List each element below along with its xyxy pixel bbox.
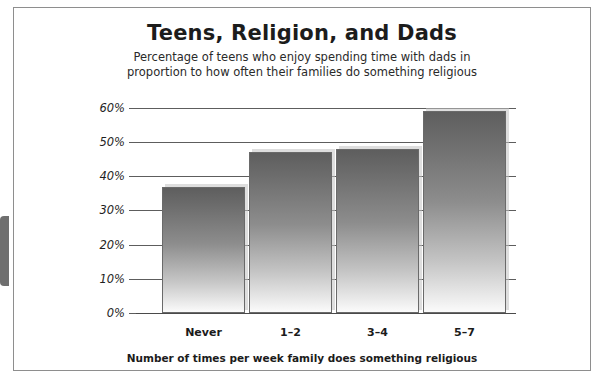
xtick-label-3-4: 3–4 [336,326,419,339]
chart-subtitle: Percentage of teens who enjoy spending t… [14,50,590,80]
ytick-30 [129,210,136,211]
x-axis-title: Number of times per week family does som… [14,352,590,364]
xtick-label-never: Never [162,326,245,339]
xtick-label-5-7: 5–7 [423,326,506,339]
bar-slot-3-4: 3–4 [336,108,419,313]
ytick-label-10: 10% [99,272,125,286]
chart-subtitle-line-2: proportion to how often their families d… [14,65,590,80]
plot-area: 60% 50% 40% 30% 20% 10% 0% [136,108,516,313]
ytick-60 [129,108,136,109]
xtick-label-1-2: 1–2 [249,326,332,339]
chart-figure: Teens, Religion, and Dads Percentage of … [13,7,591,371]
chart-title: Teens, Religion, and Dads [14,21,590,45]
ytick-label-0: 0% [107,306,125,320]
ytick-10 [129,279,136,280]
ytick-20 [129,245,136,246]
x-axis-line: 0% [136,313,516,314]
chart-subtitle-line-1: Percentage of teens who enjoy spending t… [14,50,590,65]
bar-slot-1-2: 1–2 [249,108,332,313]
ytick-40 [129,176,136,177]
page-tab [0,216,9,286]
ytick-50 [129,142,136,143]
bar-slot-5-7: 5–7 [423,108,506,313]
bar-1-2[interactable] [249,152,332,313]
bar-never[interactable] [162,187,245,313]
ytick-label-50: 50% [99,135,125,149]
ytick-label-40: 40% [99,169,125,183]
bars-group: Never 1–2 3–4 5–7 [136,108,516,313]
ytick-label-30: 30% [99,203,125,217]
bar-slot-never: Never [162,108,245,313]
ytick-label-20: 20% [99,238,125,252]
ytick-0 [129,313,136,314]
bar-3-4[interactable] [336,149,419,313]
ytick-label-60: 60% [99,101,125,115]
bar-5-7[interactable] [423,111,506,313]
